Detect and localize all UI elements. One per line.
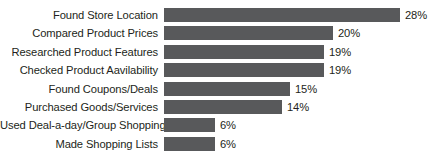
bar	[164, 137, 215, 151]
horizontal-bar-chart: Found Store Location 28% Compared Produc…	[0, 0, 432, 164]
bar-track: 19%	[164, 63, 432, 77]
value-label: 14%	[287, 101, 309, 113]
value-label: 6%	[220, 119, 236, 131]
chart-row: Researched Product Features 19%	[0, 45, 432, 59]
chart-row: Made Shopping Lists 6%	[0, 137, 432, 151]
category-label: Compared Product Prices	[0, 27, 158, 39]
bar	[164, 8, 400, 22]
value-label: 28%	[405, 9, 427, 21]
category-label: Used Deal-a-day/Group Shopping	[0, 119, 158, 131]
value-label: 15%	[295, 83, 317, 95]
value-label: 6%	[220, 138, 236, 150]
category-label: Made Shopping Lists	[0, 138, 158, 150]
value-label: 19%	[329, 64, 351, 76]
bar	[164, 100, 282, 114]
bar-track: 14%	[164, 100, 432, 114]
category-label: Found Store Location	[0, 9, 158, 21]
chart-row: Checked Product Aavilability 19%	[0, 63, 432, 77]
chart-row: Compared Product Prices 20%	[0, 26, 432, 40]
bar-track: 15%	[164, 82, 432, 96]
category-label: Checked Product Aavilability	[0, 64, 158, 76]
chart-row: Found Store Location 28%	[0, 8, 432, 22]
chart-row: Used Deal-a-day/Group Shopping 6%	[0, 118, 432, 132]
bar-track: 20%	[164, 26, 432, 40]
bar	[164, 82, 290, 96]
bar-track: 28%	[164, 8, 432, 22]
bar-track: 19%	[164, 45, 432, 59]
value-label: 20%	[338, 27, 360, 39]
bar	[164, 63, 324, 77]
bar	[164, 118, 215, 132]
bar	[164, 26, 333, 40]
category-label: Purchased Goods/Services	[0, 101, 158, 113]
chart-row: Purchased Goods/Services 14%	[0, 100, 432, 114]
category-label: Researched Product Features	[0, 46, 158, 58]
bar-track: 6%	[164, 137, 432, 151]
category-label: Found Coupons/Deals	[0, 83, 158, 95]
value-label: 19%	[329, 46, 351, 58]
bar-track: 6%	[164, 118, 432, 132]
chart-row: Found Coupons/Deals 15%	[0, 82, 432, 96]
bar	[164, 45, 324, 59]
